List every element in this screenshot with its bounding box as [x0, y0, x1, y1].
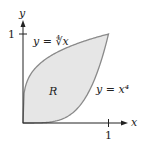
x-axis-arrow-icon — [121, 121, 128, 126]
region-diagram: x y 1 1 y = ∜x y = x⁴ R — [0, 0, 141, 145]
x-axis-label: x — [131, 116, 138, 129]
region-label: R — [48, 85, 57, 98]
x-tick-label: 1 — [105, 129, 112, 142]
y-axis-label: y — [18, 7, 26, 20]
y-tick-label: 1 — [8, 28, 15, 41]
lower-curve-label: y = x⁴ — [95, 83, 129, 96]
upper-curve-label: y = ∜x — [32, 34, 69, 48]
y-axis-arrow-icon — [21, 20, 26, 27]
